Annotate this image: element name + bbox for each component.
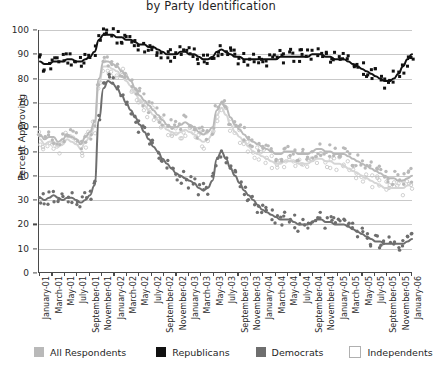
data-point	[173, 56, 176, 59]
data-point	[286, 145, 289, 148]
data-point	[116, 42, 119, 45]
data-point	[117, 30, 120, 33]
x-axis-tick-label: July-03	[228, 276, 237, 303]
data-point	[188, 46, 191, 49]
x-axis-tick-mark	[337, 272, 338, 276]
data-point	[246, 64, 249, 67]
data-point	[192, 55, 195, 58]
data-point	[376, 234, 379, 237]
data-point	[121, 67, 124, 70]
data-point	[251, 145, 254, 148]
legend-item-republicans[interactable]: Republicans	[156, 347, 229, 358]
x-axis-tick-label: November-04	[327, 276, 336, 330]
data-point	[391, 183, 394, 186]
x-axis-tick-mark	[411, 272, 412, 276]
legend-swatch	[34, 347, 44, 357]
x-axis-tick-label: January-01	[42, 276, 51, 319]
data-point	[51, 138, 54, 141]
x-axis-tick-mark	[151, 272, 152, 276]
data-point	[296, 230, 299, 233]
data-point	[392, 70, 395, 73]
data-point	[406, 65, 409, 68]
data-point	[282, 165, 285, 168]
data-point	[354, 176, 357, 179]
data-point	[362, 61, 365, 64]
legend-item-all-respondents[interactable]: All Respondents	[34, 347, 126, 358]
data-point	[84, 146, 87, 149]
x-axis-tick-mark	[225, 272, 226, 276]
data-point	[362, 73, 365, 76]
data-point	[206, 193, 209, 196]
data-point	[306, 48, 309, 51]
chart-legend: All RespondentsRepublicansDemocratsIndep…	[34, 344, 424, 360]
data-point	[166, 159, 169, 162]
data-point	[46, 144, 49, 147]
data-point	[242, 52, 245, 55]
data-point	[182, 170, 185, 173]
data-point	[291, 52, 294, 55]
x-axis-tick-mark	[299, 272, 300, 276]
data-point	[343, 219, 346, 222]
data-point	[161, 123, 164, 126]
data-point	[361, 230, 364, 233]
data-point	[200, 126, 203, 129]
data-point	[120, 42, 123, 45]
data-point	[180, 53, 183, 56]
x-axis-tick-mark	[113, 272, 114, 276]
data-point	[52, 190, 55, 193]
data-point	[387, 235, 390, 238]
data-point	[166, 56, 169, 59]
data-point	[361, 226, 364, 229]
data-point	[298, 60, 301, 63]
data-point	[270, 166, 273, 169]
y-axis-tick-label: 20	[18, 219, 29, 229]
data-point	[396, 173, 399, 176]
data-point	[230, 49, 233, 52]
data-point	[83, 53, 86, 56]
x-axis-tick-label: January-02	[117, 276, 126, 319]
data-point	[141, 104, 144, 107]
x-axis-tick-label: July-01	[79, 276, 88, 303]
x-axis-tick-mark	[175, 272, 176, 276]
data-point	[107, 64, 110, 67]
data-point	[409, 167, 412, 170]
data-point	[243, 126, 246, 129]
data-point	[397, 246, 400, 249]
data-point	[206, 62, 209, 65]
series-layer	[39, 30, 413, 273]
data-point	[252, 53, 255, 56]
data-point	[58, 152, 61, 155]
data-point	[70, 201, 73, 204]
x-axis-tick-mark	[287, 272, 288, 276]
data-point	[197, 193, 200, 196]
data-point	[410, 187, 413, 190]
data-point	[65, 52, 68, 55]
data-point	[282, 214, 285, 217]
x-axis-tick-label: May-01	[67, 276, 76, 305]
data-point	[160, 56, 163, 59]
data-point	[227, 123, 230, 126]
data-point	[196, 58, 199, 61]
data-point	[328, 143, 331, 146]
data-point	[326, 216, 329, 219]
legend-item-independents[interactable]: Independents	[349, 346, 432, 358]
y-axis-tick-mark	[33, 248, 37, 249]
data-point	[356, 235, 359, 238]
data-point	[305, 165, 308, 168]
data-point	[41, 145, 44, 148]
data-point	[401, 193, 404, 196]
data-point	[319, 154, 322, 157]
data-point	[332, 216, 335, 219]
data-point	[214, 104, 217, 107]
data-point	[42, 202, 45, 205]
y-axis-tick-mark	[33, 78, 37, 79]
y-axis-tick-label: 50	[18, 147, 29, 157]
legend-item-democrats[interactable]: Democrats	[256, 347, 324, 358]
data-point	[334, 146, 337, 149]
data-point	[202, 54, 205, 57]
data-point	[301, 218, 304, 221]
data-point	[253, 60, 256, 63]
legend-swatch	[256, 347, 266, 357]
data-point	[337, 218, 340, 221]
x-axis-tick-label: July-05	[377, 276, 386, 303]
